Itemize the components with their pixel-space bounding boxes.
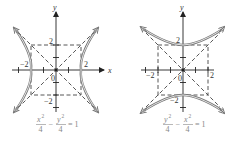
svg-text:= 1: = 1 xyxy=(68,120,79,129)
left-y-axis-label: y xyxy=(52,3,57,12)
svg-text:2: 2 xyxy=(189,113,192,119)
right-origin-label: 0 xyxy=(178,74,182,83)
svg-text:4: 4 xyxy=(39,125,43,134)
left-equation: x 2 4 − y 2 4 = 1 xyxy=(36,113,79,134)
svg-text:−: − xyxy=(176,120,181,129)
left-x-axis-label: x xyxy=(107,66,112,75)
hyperbola-figure-canvas: y x 2 −2 −2 2 0 x 2 4 − y 2 4 = 1 xyxy=(0,0,225,143)
left-origin-label: 0 xyxy=(51,74,55,83)
svg-text:2: 2 xyxy=(62,113,65,119)
left-tick-label-x-pos: 2 xyxy=(84,60,88,69)
svg-text:4: 4 xyxy=(166,125,170,134)
right-tick-label-x-pos: 2 xyxy=(210,71,214,80)
svg-text:4: 4 xyxy=(186,125,190,134)
right-tick-label-y-neg: −2 xyxy=(170,96,179,105)
right-graph: y 2 −2 −2 2 0 y 2 4 − x 2 4 = 1 xyxy=(141,3,224,134)
svg-text:y: y xyxy=(56,115,61,124)
left-tick-label-y-neg: −2 xyxy=(44,97,53,106)
right-y-axis-label: y xyxy=(179,3,184,12)
left-tick-label-x-neg: −2 xyxy=(20,60,29,69)
svg-text:2: 2 xyxy=(42,113,45,119)
svg-text:x: x xyxy=(36,115,41,124)
svg-text:4: 4 xyxy=(59,125,63,134)
svg-text:= 1: = 1 xyxy=(195,120,206,129)
right-equation: y 2 4 − x 2 4 = 1 xyxy=(163,113,206,134)
svg-text:x: x xyxy=(183,115,188,124)
left-graph: y x 2 −2 −2 2 0 x 2 4 − y 2 4 = 1 xyxy=(12,3,112,134)
svg-text:2: 2 xyxy=(169,113,172,119)
right-origin-dot xyxy=(182,69,185,72)
left-origin-dot xyxy=(55,69,58,72)
right-tick-label-x-neg: −2 xyxy=(146,71,155,80)
svg-text:−: − xyxy=(49,120,54,129)
right-tick-label-y-pos: 2 xyxy=(176,36,180,45)
svg-text:y: y xyxy=(163,115,168,124)
left-tick-label-y-pos: 2 xyxy=(49,37,53,46)
